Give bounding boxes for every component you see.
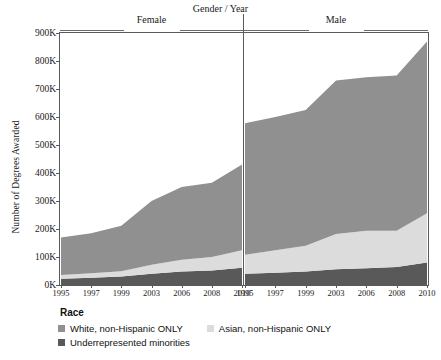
x-tick-label: 2010 (419, 288, 436, 298)
x-tick-mark (152, 285, 153, 288)
x-tick-mark (61, 285, 62, 288)
x-tick-label: 2008 (388, 288, 405, 298)
plot-area (60, 33, 428, 285)
stacked-area-series (60, 33, 428, 285)
facet-strip-rule (244, 30, 309, 31)
legend-item-asian[interactable]: Asian, non-Hispanic ONLY (207, 323, 331, 334)
y-tick-label: 700K (35, 84, 56, 94)
legend-item-urm[interactable]: Underrepresented minorities (58, 337, 190, 348)
x-tick-label: 2003 (143, 288, 160, 298)
y-tick-label: 400K (35, 168, 56, 178)
y-tick-label: 900K (35, 28, 56, 38)
x-tick-mark (245, 285, 246, 288)
plot-right-border (428, 32, 429, 286)
legend-title: Race (60, 307, 331, 318)
x-tick-label: 1999 (113, 288, 130, 298)
facet-strip-rule (60, 30, 124, 31)
x-tick-mark (182, 285, 183, 288)
x-tick-label: 1995 (53, 288, 70, 298)
x-tick-mark (397, 285, 398, 288)
legend-label-white: White, non-Hispanic ONLY (70, 323, 183, 334)
area-series-white-non-hispanic-only (245, 41, 427, 254)
x-tick-mark (306, 285, 307, 288)
legend-swatch-urm (58, 339, 65, 346)
x-tick-label: 2006 (173, 288, 190, 298)
legend-item-white[interactable]: White, non-Hispanic ONLY (58, 323, 183, 334)
x-tick-mark (336, 285, 337, 288)
y-tick-label: 300K (35, 196, 56, 206)
x-tick-mark (91, 285, 92, 288)
x-tick-label: 2006 (358, 288, 375, 298)
facet-title: Gender / Year (0, 3, 441, 14)
legend-swatch-white (58, 325, 65, 332)
x-axis-line (59, 285, 429, 286)
x-tick-label: 2003 (328, 288, 345, 298)
legend-swatch-asian (207, 325, 214, 332)
facet-strip-rule (180, 30, 243, 31)
x-tick-label: 1997 (267, 288, 284, 298)
x-tick-label: 2008 (203, 288, 220, 298)
x-tick-label: 1997 (83, 288, 100, 298)
legend: Race White, non-Hispanic ONLY Asian, non… (58, 307, 331, 351)
x-tick-mark (275, 285, 276, 288)
x-tick-mark (121, 285, 122, 288)
y-axis-ticks: 0K100K200K300K400K500K600K700K800K900K (0, 0, 56, 360)
x-tick-label: 1995 (237, 288, 254, 298)
facet-strip-rule (364, 30, 428, 31)
y-tick-label: 600K (35, 112, 56, 122)
x-tick-mark (212, 285, 213, 288)
facet-label-female: Female (60, 14, 243, 25)
x-tick-label: 1999 (297, 288, 314, 298)
x-tick-mark (427, 285, 428, 288)
y-tick-label: 200K (35, 224, 56, 234)
legend-label-asian: Asian, non-Hispanic ONLY (219, 323, 331, 334)
y-tick-label: 500K (35, 140, 56, 150)
facet-label-male: Male (244, 14, 428, 25)
y-tick-label: 800K (35, 56, 56, 66)
y-tick-label: 100K (35, 252, 56, 262)
x-tick-mark (366, 285, 367, 288)
legend-label-urm: Underrepresented minorities (70, 337, 190, 348)
